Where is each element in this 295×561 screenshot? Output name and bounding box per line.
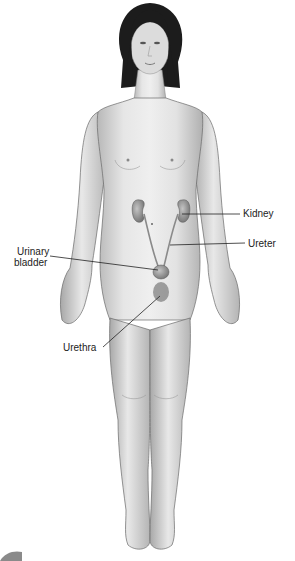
kidney-left [132,200,144,223]
left-leg [110,318,150,549]
anatomy-figure: Kidney Ureter Urinary bladder Urethra [0,0,295,561]
label-ureter: Ureter [248,238,276,249]
label-urethra: Urethra [63,342,96,353]
urinary-bladder [153,265,169,279]
label-urinary-bladder-line1: Urinary [17,246,49,257]
label-urinary-bladder-line2: bladder [14,257,47,268]
neck [134,70,166,100]
right-leg [150,318,190,549]
label-kidney: Kidney [243,208,274,219]
face [131,22,169,74]
kidney-right [178,200,190,223]
body-illustration [0,0,295,561]
